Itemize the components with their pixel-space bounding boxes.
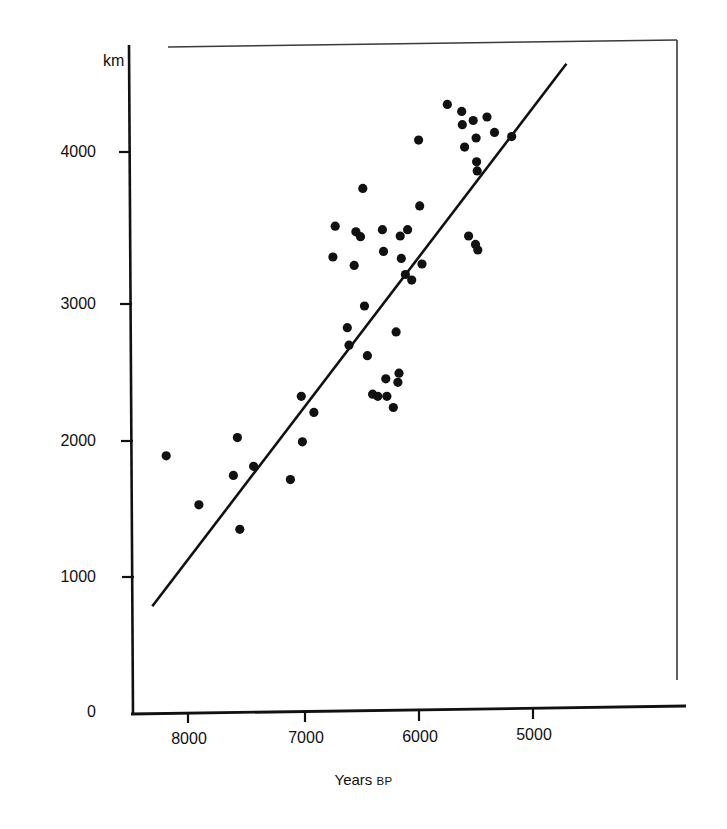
data-point <box>414 136 423 145</box>
data-point <box>249 462 258 471</box>
data-point <box>343 323 352 332</box>
data-point <box>373 392 382 401</box>
data-point <box>356 232 365 241</box>
figure-scatter-years-bp-km: 4000 3000 2000 1000 0 km 8000 7000 6000 … <box>0 0 727 829</box>
y-tick-label-1000: 1000 <box>36 568 96 586</box>
data-point <box>363 351 372 360</box>
data-point <box>360 301 369 310</box>
data-point <box>482 112 491 121</box>
data-point <box>472 133 481 142</box>
data-point <box>235 525 244 534</box>
data-point <box>460 143 469 152</box>
data-point <box>397 254 406 263</box>
data-point <box>309 408 318 417</box>
plot-canvas <box>0 0 727 829</box>
data-point <box>473 245 482 254</box>
data-point-group <box>162 100 517 534</box>
data-point <box>469 116 478 125</box>
y-tick-label-3000: 3000 <box>36 295 96 313</box>
data-point <box>403 225 412 234</box>
data-point <box>381 374 390 383</box>
x-tick-label-6000: 6000 <box>396 728 444 746</box>
data-point <box>162 451 171 460</box>
y-axis-unit-label: km <box>103 52 124 70</box>
y-axis-line <box>129 45 133 713</box>
data-point <box>378 225 387 234</box>
data-point <box>344 341 353 350</box>
y-tick-label-4000: 4000 <box>36 143 96 161</box>
data-point <box>394 369 403 378</box>
data-point <box>417 259 426 268</box>
data-point <box>464 231 473 240</box>
data-point <box>396 231 405 240</box>
x-tick-label-7000: 7000 <box>282 729 330 747</box>
data-point <box>194 500 203 509</box>
data-point <box>350 261 359 270</box>
data-point <box>233 433 242 442</box>
data-point <box>490 128 499 137</box>
data-point <box>443 100 452 109</box>
data-point <box>507 132 516 141</box>
data-point <box>358 184 367 193</box>
plot-frame-top <box>168 40 677 47</box>
data-point <box>392 327 401 336</box>
x-axis-line <box>131 706 686 714</box>
y-tick-label-2000: 2000 <box>36 432 96 450</box>
trend-line <box>152 64 566 607</box>
x-axis-title: Years BP <box>0 771 727 788</box>
data-point <box>473 166 482 175</box>
data-point <box>458 120 467 129</box>
data-point <box>298 437 307 446</box>
x-tick-label-8000: 8000 <box>165 730 213 748</box>
data-point <box>379 247 388 256</box>
data-point <box>415 201 424 210</box>
data-point <box>472 157 481 166</box>
x-axis-title-suffix: BP <box>377 775 393 787</box>
data-point <box>328 252 337 261</box>
data-point <box>389 403 398 412</box>
data-point <box>297 392 306 401</box>
data-point <box>407 276 416 285</box>
x-axis-title-main: Years <box>335 771 373 788</box>
data-point <box>331 222 340 231</box>
data-point <box>229 471 238 480</box>
data-point <box>286 475 295 484</box>
data-point <box>382 392 391 401</box>
x-tick-label-5000: 5000 <box>510 726 558 744</box>
data-point <box>457 107 466 116</box>
data-point <box>393 378 402 387</box>
y-tick-label-0: 0 <box>36 703 96 721</box>
